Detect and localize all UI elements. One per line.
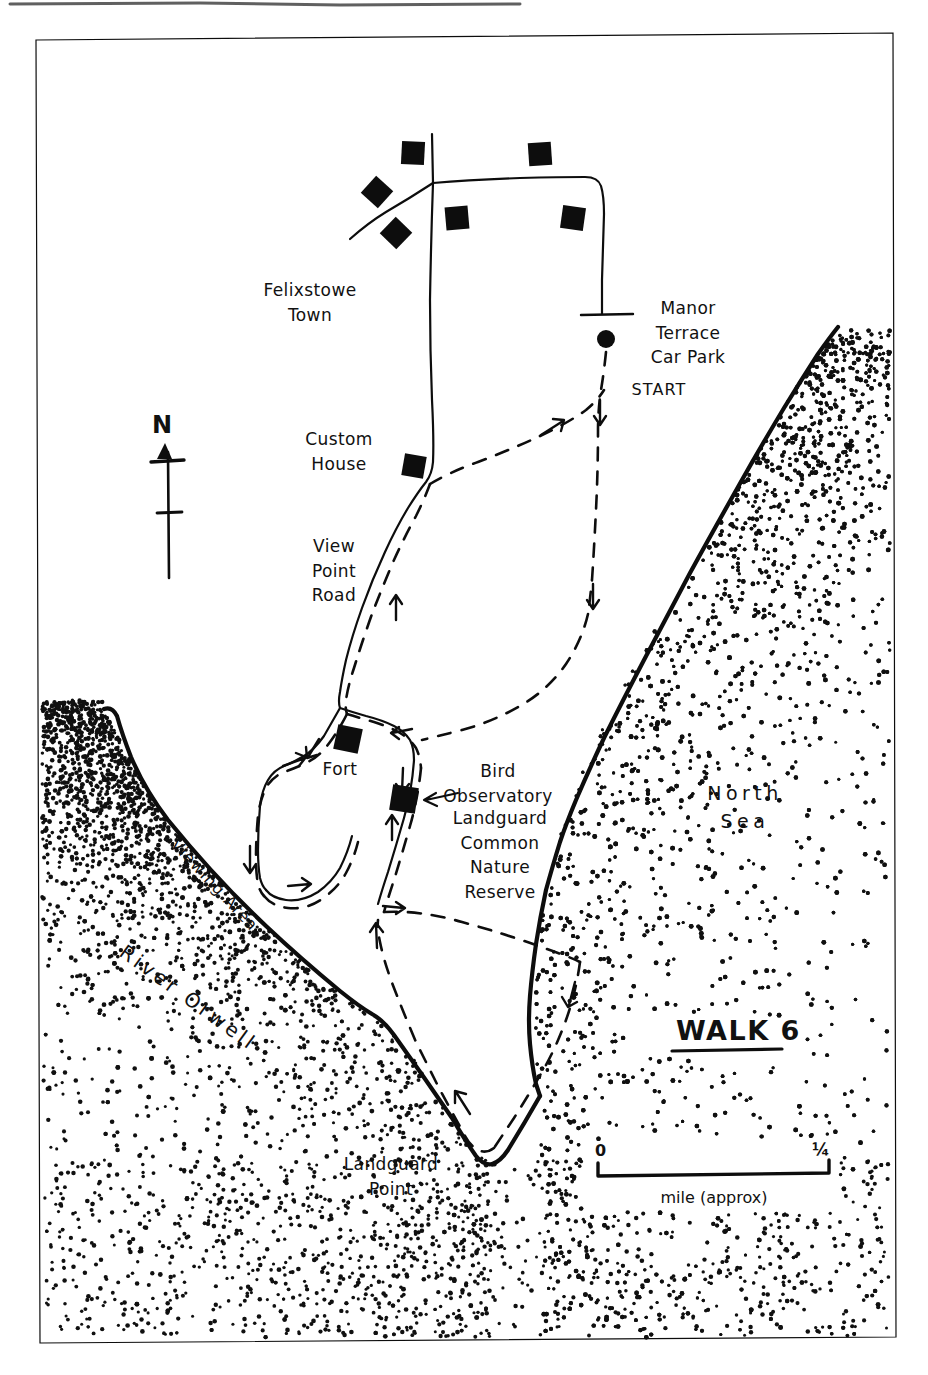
hand-drawn-map: N WALK 6 0 ¼ mile (approx) FelixstoweTow… bbox=[0, 0, 928, 1375]
label-view-point-road: ViewPointRoad bbox=[312, 536, 356, 605]
scale-bar-right-label: ¼ bbox=[812, 1140, 830, 1160]
label-view-point-road-line-3: Road bbox=[312, 585, 356, 605]
label-landguard-common-nature-reserve-line-4: Reserve bbox=[464, 882, 535, 902]
label-fort-line-1: Fort bbox=[323, 759, 358, 779]
label-custom-house-line-2: House bbox=[311, 454, 366, 474]
custom-house-building bbox=[401, 453, 426, 478]
label-start-line-1: START bbox=[632, 380, 687, 399]
label-manor-terrace-car-park: ManorTerraceCar Park bbox=[651, 298, 726, 367]
walk-title-underline bbox=[672, 1049, 782, 1051]
label-view-point-road-line-1: View bbox=[313, 536, 355, 556]
label-custom-house-line-1: Custom bbox=[305, 429, 373, 449]
label-manor-terrace-car-park-line-1: Manor bbox=[660, 298, 715, 318]
label-landguard-common-nature-reserve-line-1: Landguard bbox=[453, 808, 548, 828]
label-landguard-point-line-2: Point bbox=[369, 1179, 413, 1199]
label-north-sea-line-1: North bbox=[707, 782, 783, 804]
compass-north-label: N bbox=[152, 411, 172, 439]
label-landguard-point-line-1: Landguard bbox=[344, 1154, 439, 1174]
label-manor-terrace-car-park-line-3: Car Park bbox=[651, 347, 726, 367]
label-bird-observatory-line-2: Observatory bbox=[443, 786, 552, 806]
label-view-point-road-line-2: Point bbox=[312, 561, 356, 581]
label-felixstowe-town-line-1: Felixstowe bbox=[263, 280, 356, 300]
scale-bar-caption: mile (approx) bbox=[661, 1188, 768, 1207]
start-marker-dot bbox=[597, 330, 615, 348]
map-root: N WALK 6 0 ¼ mile (approx) FelixstoweTow… bbox=[0, 0, 928, 1375]
town-building-1 bbox=[401, 141, 425, 165]
label-start: START bbox=[632, 380, 687, 399]
fort-building bbox=[333, 724, 363, 754]
label-landguard-common-nature-reserve-line-3: Nature bbox=[470, 857, 530, 877]
label-fort: Fort bbox=[323, 759, 358, 779]
bird-observatory-building bbox=[389, 784, 419, 814]
label-landguard-common-nature-reserve-line-2: Common bbox=[461, 833, 540, 853]
scan-artifact-line bbox=[10, 3, 520, 5]
road-town-vertical-north bbox=[432, 134, 433, 183]
town-building-4 bbox=[445, 206, 470, 231]
label-bird-observatory-line-1: Bird bbox=[480, 761, 515, 781]
compass-cross-bar bbox=[157, 512, 182, 513]
label-north-sea-line-2: Sea bbox=[721, 810, 770, 832]
label-felixstowe-town-line-2: Town bbox=[287, 305, 332, 325]
walk-title-text: WALK 6 bbox=[676, 1015, 801, 1046]
scale-bar-left-label: 0 bbox=[595, 1141, 606, 1160]
town-building-5 bbox=[560, 205, 586, 231]
label-manor-terrace-car-park-line-2: Terrace bbox=[655, 323, 721, 343]
compass-shaft bbox=[168, 452, 169, 578]
walk-title-group: WALK 6 bbox=[672, 1015, 801, 1051]
town-building-2 bbox=[528, 142, 553, 167]
car-park-end-bar bbox=[581, 314, 633, 315]
